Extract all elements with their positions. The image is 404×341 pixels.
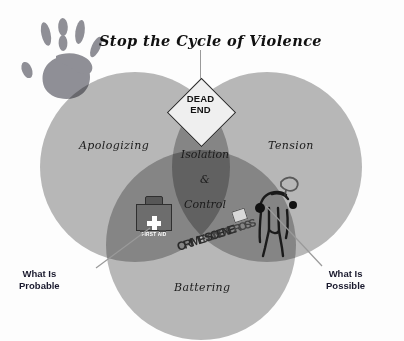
circle-label-battering: Battering <box>174 281 231 294</box>
first-aid-body: FIRST AID <box>136 204 172 231</box>
marker-dot-left <box>255 203 265 213</box>
dead-end-line2: END <box>177 104 224 115</box>
callout-probable-line2: Probable <box>19 280 60 292</box>
chalk-body-outline-icon <box>252 168 304 260</box>
first-aid-kit-icon: FIRST AID <box>136 196 170 236</box>
marker-dot-right <box>289 201 297 209</box>
callout-possible-line2: Possible <box>326 280 365 292</box>
diagram-canvas: Stop the Cycle of Violence DEAD END Apol… <box>0 0 404 341</box>
dead-end-line1: DEAD <box>177 93 224 104</box>
page-title: Stop the Cycle of Violence <box>99 32 322 49</box>
callout-probable-line1: What Is <box>19 268 60 280</box>
circle-label-apologizing: Apologizing <box>79 139 149 152</box>
callout-possible-line1: What Is <box>326 268 365 280</box>
first-aid-foot-left <box>140 230 147 232</box>
circle-label-tension: Tension <box>268 139 314 152</box>
first-aid-label: FIRST AID <box>137 232 171 237</box>
dead-end-sign-text: DEAD END <box>177 93 224 115</box>
callout-what-is-probable: What Is Probable <box>19 268 60 291</box>
first-aid-foot-right <box>159 230 166 232</box>
center-label: Isolation & Control <box>160 142 250 217</box>
plus-symbol-horizontal <box>147 221 161 226</box>
callout-what-is-possible: What Is Possible <box>326 268 365 291</box>
center-line2: & <box>160 167 250 192</box>
center-line1: Isolation <box>160 142 250 167</box>
